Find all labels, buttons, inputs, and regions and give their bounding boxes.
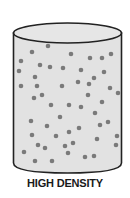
particle-dot: [33, 159, 38, 164]
particle-dot: [86, 93, 91, 98]
particle-dot: [106, 120, 111, 125]
particle-dot: [83, 155, 88, 160]
particle-dot: [54, 134, 59, 139]
particle-dot: [35, 84, 40, 89]
particle-dot: [36, 143, 41, 148]
particle-dot: [38, 63, 43, 68]
particle-dot: [115, 134, 120, 139]
particle-dot: [49, 103, 54, 108]
particle-dot: [76, 80, 81, 85]
particle-dot: [19, 59, 24, 64]
cylinder-diagram: [0, 0, 130, 198]
particle-dot: [63, 144, 68, 149]
particle-dot: [88, 56, 93, 61]
particle-dot: [114, 143, 119, 148]
particle-dot: [40, 93, 45, 98]
particle-dot: [102, 70, 107, 75]
particle-dot: [67, 103, 72, 108]
particle-dot: [50, 159, 55, 164]
particle-dot: [100, 100, 105, 105]
particle-dot: [30, 50, 35, 55]
particle-dot: [77, 126, 82, 131]
particle-dot: [30, 133, 35, 138]
particle-dot: [95, 137, 100, 142]
particle-dot: [43, 146, 48, 151]
particle-dot: [98, 123, 103, 128]
particle-dot: [19, 84, 24, 89]
particle-dot: [66, 151, 71, 156]
particle-dot: [93, 111, 98, 116]
particle-dot: [17, 69, 22, 74]
particle-dot: [87, 82, 92, 87]
density-label: HIGH DENSITY: [0, 177, 130, 189]
particle-dot: [46, 44, 51, 49]
particle-dot: [116, 91, 121, 96]
particle-dot: [33, 75, 38, 80]
particle-dot: [100, 56, 105, 61]
particle-dot: [22, 150, 27, 155]
particle-dot: [48, 65, 53, 70]
particle-dot: [29, 119, 34, 124]
particle-dot: [109, 52, 114, 57]
particle-dot: [79, 105, 84, 110]
particle-dot: [79, 68, 84, 73]
particle-dot: [92, 76, 97, 81]
particle-dot: [108, 86, 113, 91]
particle-dot: [92, 154, 97, 159]
particle-dot: [60, 84, 65, 89]
particle-dot: [71, 141, 76, 146]
particle-dot: [32, 96, 37, 101]
particle-dot: [58, 115, 63, 120]
particle-dot: [61, 66, 66, 71]
particle-dot: [69, 52, 74, 57]
cylinder-top: [14, 23, 122, 43]
particle-dot: [45, 124, 50, 129]
particle-dot: [67, 130, 72, 135]
